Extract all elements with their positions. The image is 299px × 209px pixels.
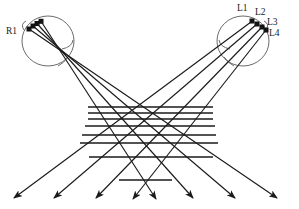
right-ray-bundle <box>14 21 266 199</box>
label-l1: L1 <box>237 4 248 14</box>
diagram-canvas <box>0 0 299 209</box>
left-head-outline <box>22 16 74 66</box>
label-l4: L4 <box>269 29 280 39</box>
label-l3: L3 <box>267 18 278 28</box>
label-l2: L2 <box>255 8 266 18</box>
ray-diagram-figure: R1 L1 L2 L3 L4 <box>0 0 299 209</box>
label-r1: R1 <box>6 27 17 37</box>
